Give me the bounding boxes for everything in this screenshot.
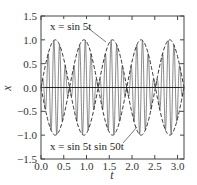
annotation-product: x = sin 5t sin 50t (50, 140, 124, 152)
x-tick-label: 2.0 (125, 160, 139, 172)
y-tick-label: −1.5 (17, 153, 37, 165)
annotation-envelope: x = sin 5t (50, 20, 91, 32)
y-tick-label: 0.0 (23, 82, 37, 94)
plot-curves (41, 40, 184, 135)
x-tick-label: 0.5 (57, 160, 71, 172)
y-axis-label: x (0, 85, 14, 92)
y-tick-label: −1.0 (17, 129, 37, 141)
y-tick-label: 0.5 (23, 58, 37, 70)
x-tick-label: 3.0 (171, 160, 185, 172)
annotation-envelope-leader (88, 28, 106, 42)
x-tick-label: 1.0 (80, 160, 94, 172)
y-tick-label: −0.5 (17, 105, 37, 117)
chart: 0.00.51.01.52.02.53.01.51.00.50.0−0.5−1.… (0, 0, 197, 185)
annotation-product-leader (123, 127, 137, 143)
y-tick-label: 1.0 (23, 34, 37, 46)
x-tick-label: 2.5 (148, 160, 162, 172)
y-tick-label: 1.5 (23, 10, 37, 22)
